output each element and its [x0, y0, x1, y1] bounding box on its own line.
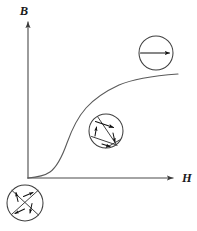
inset-circle-knee [89, 114, 123, 148]
saturation-domain-inset [139, 36, 173, 70]
figure-canvas: B H [0, 0, 197, 231]
domain-wall-inset [89, 114, 123, 148]
magnetization-curve-figure: B H [0, 0, 197, 231]
x-axis-label: H [181, 171, 193, 185]
y-axis-label: B [19, 4, 28, 18]
unmagnetized-domain-inset [7, 185, 43, 221]
